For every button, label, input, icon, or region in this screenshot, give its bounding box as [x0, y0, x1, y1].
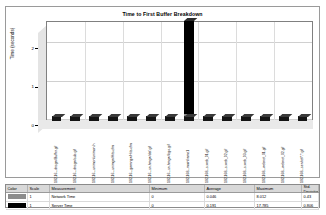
- bar-base-slab: [108, 116, 118, 121]
- bar-base-top: [222, 114, 235, 117]
- x-axis-tick-label: 192.168...s.web_03.gif: [243, 149, 247, 183]
- bar-base-top: [298, 114, 311, 117]
- legend-std-deviation-cell: 0.43: [302, 193, 319, 201]
- legend-average-cell: 0.046: [205, 193, 255, 201]
- bar-column: [184, 21, 194, 121]
- legend-minimum-cell: 0: [150, 193, 205, 201]
- plot-floor: [38, 120, 313, 129]
- legend-row[interactable]: 1Server Time00.19117.7850.806: [6, 202, 319, 211]
- bar-base-top: [70, 114, 83, 117]
- legend-maximum-cell: 8.012: [255, 193, 302, 201]
- bar-base-top: [127, 114, 140, 117]
- legend-header-color: Color: [6, 185, 28, 192]
- bar-base-slab: [260, 116, 270, 121]
- bar-base-slab: [89, 116, 99, 121]
- bar-top-face: [184, 18, 197, 21]
- bar-base-slab: [279, 116, 289, 121]
- legend-scale-cell: 1: [28, 193, 50, 201]
- legend-header-std-deviation: Std. Deviation: [302, 185, 319, 192]
- legend-table: Color Scale Measurement Minimum Average …: [5, 184, 320, 208]
- bar-base-top: [108, 114, 121, 117]
- legend-measurement-cell: Server Time: [50, 202, 150, 210]
- legend-measurement-cell: Network Time: [50, 193, 150, 201]
- legend-row[interactable]: 1Network Time00.0468.0120.43: [6, 193, 319, 202]
- bar-base-top: [260, 114, 273, 117]
- x-axis-tick-label: 192.16...dnsgw/Buffer.gif: [54, 146, 58, 183]
- legend-header-row: Color Scale Measurement Minimum Average …: [6, 185, 319, 193]
- x-axis-tick-label: 192.168...s.web_02.gif: [224, 149, 228, 183]
- chart-screenshot: Time to First Buffer Breakdown Time (sec…: [0, 0, 326, 215]
- y-axis-tick-label: 2: [24, 46, 34, 51]
- x-axis-labels: 192.16...dnsgw/Buffer.gif192.16...dnsgw/…: [38, 131, 313, 183]
- bar-base-slab: [222, 116, 232, 121]
- plot-area: [38, 21, 313, 129]
- x-axis-tick-label: 192.16...unimgw/Hits.cfm: [111, 145, 115, 183]
- x-axis-tick-label: 192.16...unimon/unimon.h: [92, 144, 96, 183]
- y-axis-tick-label: 1: [24, 84, 34, 89]
- chart-title: Time to First Buffer Breakdown: [6, 11, 319, 17]
- bar-base-top: [52, 114, 65, 117]
- bar-base-top: [279, 114, 292, 117]
- legend-color-swatch: [8, 194, 26, 199]
- x-axis-tick-label: 192.16...gwmngw/Hits.cfm: [129, 143, 133, 183]
- legend-average-cell: 0.191: [205, 202, 255, 210]
- x-axis-tick-label: 192.168...s.web_01.gif: [205, 149, 209, 183]
- bar-base-top: [203, 114, 216, 117]
- bar-base-top: [241, 114, 254, 117]
- bar-base-top: [146, 114, 159, 117]
- x-axis-tick-label: 192.16...sn.hmgw/logo.gif: [167, 144, 171, 183]
- legend-header-scale: Scale: [28, 185, 50, 192]
- y-axis-title: Time (seconds): [10, 14, 15, 74]
- y-axis-tick-mark: [35, 125, 38, 126]
- y-axis-tick-mark: [35, 87, 38, 88]
- bar-base-slab: [184, 116, 194, 121]
- bar-group: [47, 21, 312, 121]
- y-axis-tick-label: 0: [24, 123, 34, 128]
- x-axis-tick-label: 192.168...mainframe1: [186, 150, 190, 183]
- bar-base-slab: [146, 116, 156, 121]
- legend-color-swatch: [8, 203, 26, 208]
- x-axis-tick-label: 192.16...sn.hmgw/def.gif: [148, 146, 152, 183]
- legend-body: 1Network Time00.0468.0120.431Server Time…: [6, 193, 319, 210]
- bar-base-slab: [165, 116, 175, 121]
- legend-maximum-cell: 17.785: [255, 202, 302, 210]
- legend-color-cell: [6, 193, 28, 201]
- x-axis-tick-label: 192.168...servlet/*.*.gif: [300, 149, 304, 183]
- bar-base-slab: [52, 116, 62, 121]
- bar-base-slab: [241, 116, 251, 121]
- legend-scale-cell: 1: [28, 202, 50, 210]
- legend-header-average: Average: [205, 185, 255, 192]
- legend-header-minimum: Minimum: [150, 185, 205, 192]
- legend-minimum-cell: 0: [150, 202, 205, 210]
- bar-segment-server-time: [184, 21, 194, 121]
- bar-base-top: [165, 114, 178, 117]
- bar-base-slab: [70, 116, 80, 121]
- chart-panel: Time to First Buffer Breakdown Time (sec…: [5, 6, 320, 178]
- bar-base-top: [89, 114, 102, 117]
- x-axis-tick-label: 192.168...webnet_01.gif: [262, 147, 266, 183]
- bar-base-slab: [203, 116, 213, 121]
- bar-base-slab: [298, 116, 308, 121]
- legend-std-deviation-cell: 0.806: [302, 202, 319, 210]
- x-axis-tick-label: 192.16...dnsgw/sub.gif: [73, 149, 77, 183]
- bar-base-slab: [127, 116, 137, 121]
- legend-header-maximum: Maximum: [255, 185, 302, 192]
- x-axis-tick-label: 192.168...webnet_02.gif: [281, 147, 285, 183]
- legend-color-cell: [6, 202, 28, 210]
- legend-header-measurement: Measurement: [50, 185, 150, 192]
- bar-base-top: [184, 114, 197, 117]
- y-axis-tick-mark: [35, 48, 38, 49]
